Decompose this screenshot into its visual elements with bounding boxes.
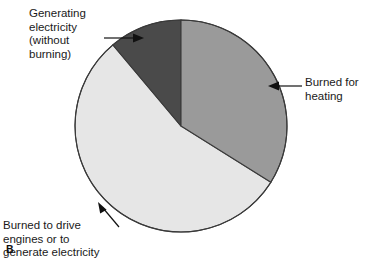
- arrowhead-burned-to-drive-engines: [98, 202, 107, 214]
- label-burned-to-drive-engines: Burned to drive engines or to generate e…: [3, 219, 119, 260]
- label-burned-for-heating: Burned for heating: [305, 76, 381, 103]
- label-generating-electricity: Generating electricity (without burning): [29, 7, 125, 61]
- panel-label: B: [6, 243, 14, 255]
- pie-chart-figure: Generating electricity (without burning)…: [0, 0, 383, 266]
